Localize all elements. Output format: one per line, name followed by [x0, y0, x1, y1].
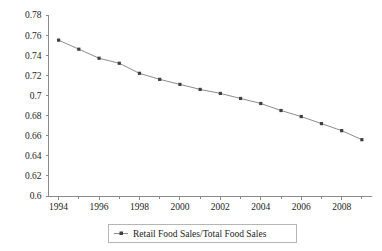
y-tick-label: 0.78 [25, 10, 42, 20]
data-point-marker [57, 39, 60, 42]
y-tick-label: 0.64 [25, 151, 42, 161]
x-tick-label: 2008 [332, 202, 351, 212]
legend-marker-symbol [120, 232, 124, 236]
data-point-marker [239, 97, 242, 100]
data-point-marker [360, 138, 363, 141]
data-point-marker [219, 92, 222, 95]
x-tick-label: 2004 [251, 202, 270, 212]
x-tick-label: 2000 [170, 202, 189, 212]
data-point-marker [279, 109, 282, 112]
y-tick-label: 0.66 [25, 131, 42, 141]
line-chart: 0.60.620.640.660.680.70.720.740.760.78 1… [0, 0, 382, 251]
data-point-marker [158, 78, 161, 81]
data-point-marker [178, 83, 181, 86]
x-tick-label: 2002 [211, 202, 230, 212]
y-tick-label: 0.76 [25, 31, 42, 41]
y-tick-label: 0.62 [25, 171, 42, 181]
x-tick-label: 2006 [292, 202, 311, 212]
data-point-marker [97, 57, 100, 60]
x-tick-label: 1994 [49, 202, 68, 212]
data-point-marker [118, 62, 121, 65]
y-tick-label: 0.7 [30, 91, 42, 101]
x-axis: 19941996199820002002200420062008 [49, 196, 373, 212]
x-tick-label: 1996 [90, 202, 109, 212]
x-tick-label: 1998 [130, 202, 149, 212]
data-point-marker [340, 129, 343, 132]
y-tick-label: 0.72 [25, 71, 42, 81]
legend-label-0: Retail Food Sales/Total Food Sales [133, 229, 267, 239]
x-axis-tick-labels: 19941996199820002002200420062008 [49, 202, 351, 212]
series-markers-retail-food-sales-ratio [57, 39, 363, 142]
series-line-retail-food-sales-ratio [59, 40, 362, 140]
legend: Retail Food Sales/Total Food Sales [109, 225, 297, 243]
data-point-marker [138, 72, 141, 75]
y-tick-label: 0.6 [30, 191, 42, 201]
chart-container: 0.60.620.640.660.680.70.720.740.760.78 1… [0, 0, 382, 251]
data-point-marker [259, 102, 262, 105]
y-axis: 0.60.620.640.660.680.70.720.740.760.78 [25, 10, 49, 201]
data-point-marker [77, 48, 80, 51]
y-tick-label: 0.74 [25, 51, 42, 61]
data-point-marker [320, 122, 323, 125]
y-tick-label: 0.68 [25, 111, 42, 121]
plot-area [57, 39, 363, 142]
data-point-marker [199, 88, 202, 91]
data-point-marker [300, 115, 303, 118]
y-axis-tick-labels: 0.60.620.640.660.680.70.720.740.760.78 [25, 10, 42, 201]
